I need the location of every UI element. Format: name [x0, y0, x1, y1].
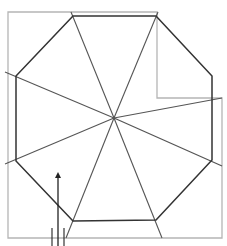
spoke-2 — [114, 12, 158, 118]
octagon-diagram — [0, 0, 227, 246]
background-outline — [8, 12, 222, 238]
spoke-3 — [114, 98, 222, 118]
spoke-7 — [5, 118, 114, 164]
spokes — [5, 12, 222, 238]
up-arrow-icon — [55, 172, 61, 246]
diagram-canvas — [0, 0, 227, 246]
